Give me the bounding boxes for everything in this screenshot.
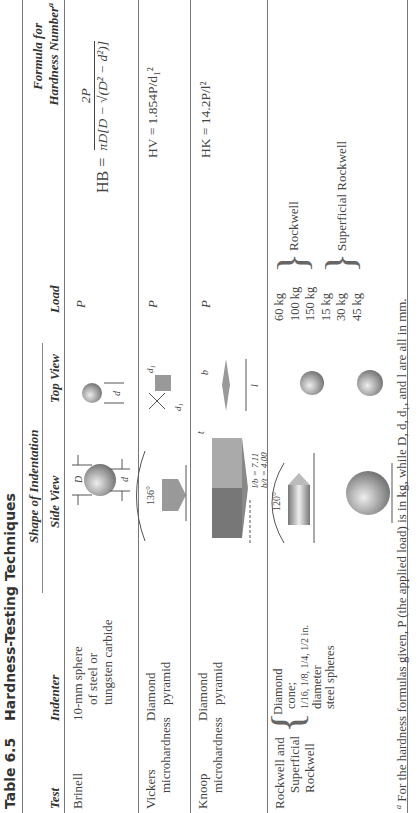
row-knoop-test: Knoop microhardness — [195, 717, 225, 809]
row-brinell-test: Brinell — [70, 773, 85, 809]
row-vickers-load: P — [145, 300, 160, 308]
svg-text:d₁: d₁ — [145, 365, 155, 373]
indenter-brace: { — [266, 712, 310, 733]
svg-text:l: l — [249, 384, 260, 387]
row-vickers-indenter: Diamond pyramid — [143, 662, 173, 721]
table-title: Hardness-Testing Techniques — [2, 493, 18, 721]
rockwell-load-brace: } — [270, 253, 314, 273]
vickers-top-view-icon: d₁ d₁ — [145, 353, 187, 413]
svg-text:D: D — [73, 475, 84, 484]
svg-text:d₁: d₁ — [173, 403, 183, 411]
header-test: Test — [47, 788, 63, 809]
row-vickers-test: Vickers microhardness — [143, 717, 173, 809]
svg-text:b: b — [199, 370, 210, 375]
row-vickers-formula: HV = 1.854P/d₁² — [145, 67, 161, 158]
header-load: Load — [47, 286, 63, 313]
rule-row-1 — [138, 0, 139, 813]
svg-text:120°: 120° — [271, 492, 282, 511]
row-brinell-load: P — [73, 300, 88, 308]
superficial-load-brace: } — [318, 253, 362, 273]
header-top-view: Top View — [47, 354, 63, 403]
row-rockwell-loads: 60 kg 100 kg 150 kg 15 kg 30 kg 45 kg — [272, 287, 365, 321]
rockwell-top-view-icon — [290, 353, 400, 413]
svg-text:d: d — [111, 390, 122, 396]
table-footnote: a For the hardness formulas given, P (th… — [394, 298, 410, 809]
rule-row-2 — [190, 0, 191, 813]
superficial-rockwell-label: Superficial Rockwell — [334, 141, 349, 251]
rule-top — [22, 0, 23, 813]
header-formula: Formula for Hardness Numbera — [30, 3, 62, 133]
knoop-top-view-icon: b l — [196, 345, 262, 415]
row-rockwell-indenter: Diamond cone; 1/16, 1/8, 1/4, 1/2 in. di… — [272, 625, 337, 715]
brinell-top-view-icon: d — [80, 353, 130, 413]
svg-text:b/t = 4.00: b/t = 4.00 — [259, 452, 269, 488]
row-brinell-formula: HB = 2P πD[D − √(D² − d²)] — [78, 41, 111, 193]
header-side-view: Side View — [47, 476, 63, 528]
rule-header-bottom — [64, 0, 65, 813]
rule-row-3 — [267, 0, 268, 813]
knoop-side-view-icon: t l/b = 7.11 b/t = 4.00 — [192, 418, 266, 548]
rockwell-side-view-icon: 120° — [270, 423, 402, 563]
group-header-rule — [42, 343, 43, 593]
row-knoop-indenter: Diamond pyramid — [195, 662, 225, 721]
table-caption: Table 6.5 Hardness-Testing Techniques — [2, 493, 18, 809]
svg-text:t: t — [195, 431, 206, 434]
brinell-side-view-icon: D d — [72, 433, 134, 543]
rotated-table-page: Table 6.5 Hardness-Testing Techniques Sh… — [0, 0, 419, 813]
row-brinell-indenter: 10-mm sphere of steel or tungsten carbid… — [70, 619, 115, 721]
row-knoop-formula: HK = 14.2P/l² — [198, 81, 214, 158]
row-knoop-load: P — [198, 300, 213, 308]
rockwell-label: Rockwell — [286, 201, 301, 251]
svg-text:136°: 136° — [145, 486, 156, 505]
header-indenter: Indenter — [47, 675, 63, 721]
svg-text:d: d — [119, 476, 130, 482]
table-number: Table 6.5 — [2, 738, 18, 809]
row-rockwell-test: Rockwell and Superficial Rockwell — [272, 736, 317, 809]
header-shape-of-indentation: Shape of Indentation — [26, 430, 42, 543]
vickers-side-view-icon: 136° — [140, 431, 188, 551]
